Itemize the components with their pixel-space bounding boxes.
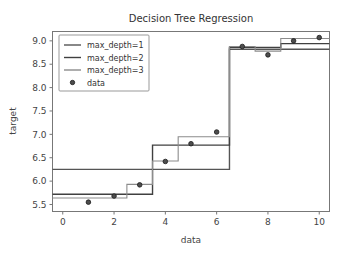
data-point: [86, 200, 91, 205]
x-tick-label: 0: [60, 217, 66, 227]
data-point: [266, 53, 271, 58]
legend-label: max_depth=3: [87, 66, 144, 75]
x-tick-label: 2: [111, 217, 117, 227]
data-point: [189, 141, 194, 146]
y-tick-label: 8.0: [32, 83, 47, 93]
y-tick-label: 5.5: [32, 200, 46, 210]
y-tick-label: 7.0: [32, 130, 47, 140]
x-tick-label: 8: [265, 217, 271, 227]
x-tick-label: 10: [314, 217, 326, 227]
legend-label: max_depth=2: [87, 54, 144, 63]
data-point: [291, 39, 296, 44]
data-point: [317, 35, 322, 40]
data-point: [163, 159, 168, 164]
x-tick-label: 4: [162, 217, 168, 227]
legend-label: data: [87, 79, 105, 88]
legend: max_depth=1max_depth=2max_depth=3data: [59, 35, 149, 91]
data-point: [137, 183, 142, 188]
y-axis-title: target: [8, 107, 18, 135]
legend-marker-swatch: [70, 80, 74, 84]
y-tick-label: 7.5: [32, 106, 46, 116]
x-tick-label: 6: [214, 217, 220, 227]
y-tick-label: 9.0: [32, 36, 47, 46]
y-axis-ticks: 5.56.06.57.07.58.08.59.0: [32, 36, 52, 210]
figure-canvas: Decision Tree Regression target data 5.5…: [0, 0, 349, 254]
y-tick-label: 8.5: [32, 59, 46, 69]
y-tick-label: 6.5: [32, 153, 46, 163]
data-point: [240, 44, 245, 49]
legend-label: max_depth=1: [87, 41, 144, 50]
decision-tree-regression-chart: Decision Tree Regression target data 5.5…: [0, 0, 349, 254]
chart-title: Decision Tree Regression: [129, 13, 253, 24]
data-point: [214, 130, 219, 135]
data-point: [112, 194, 117, 199]
y-tick-label: 6.0: [32, 176, 47, 186]
x-axis-ticks: 0246810: [60, 212, 325, 227]
x-axis-title: data: [181, 235, 201, 245]
